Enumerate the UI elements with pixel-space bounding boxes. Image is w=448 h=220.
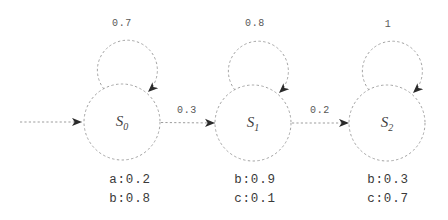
transition-arrow-s0-s1[interactable] — [161, 123, 215, 124]
emission-line: b:0.3 — [367, 171, 409, 190]
emission-line: b:0.8 — [109, 190, 151, 209]
emission-line: a:0.2 — [109, 171, 151, 190]
emission-line: c:0.7 — [367, 190, 409, 209]
self-loop-weight-s1: 0.8 — [245, 18, 265, 29]
transition-weight-s1-s2: 0.2 — [310, 105, 330, 116]
emission-line: b:0.9 — [234, 171, 276, 190]
state-diagram-canvas: S0 S1 S2 0.7 0.8 1 0.3 0.2 a:0.2 b:0.8 b… — [0, 0, 448, 220]
self-loop-weight-s0: 0.7 — [112, 18, 132, 29]
state-label-s2: S2 — [381, 114, 394, 133]
state-label-s1: S1 — [247, 114, 260, 133]
emission-block-s0: a:0.2 b:0.8 — [109, 171, 151, 209]
emission-line: c:0.1 — [234, 190, 276, 209]
self-loop-weight-s2: 1 — [385, 19, 392, 30]
transition-weight-s0-s1: 0.3 — [177, 105, 197, 116]
emission-block-s1: b:0.9 c:0.1 — [234, 171, 276, 209]
state-label-s0: S0 — [116, 113, 129, 132]
emission-block-s2: b:0.3 c:0.7 — [367, 171, 409, 209]
